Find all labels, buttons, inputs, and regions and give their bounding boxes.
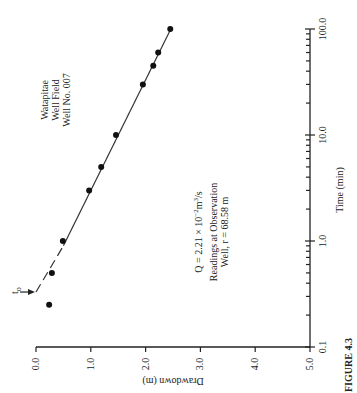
- t0-arrow-head-icon: [28, 289, 35, 295]
- figure-caption-fragment: FIGURE 4.3: [343, 338, 354, 392]
- data-point: [86, 187, 92, 193]
- drawdown-tick-label: 1.0: [85, 358, 96, 371]
- drawdown-axis-title: Drawdown (m): [142, 375, 203, 387]
- drawdown-ticks: [36, 347, 310, 352]
- readings-line-2: Well, r = 68.58 m: [219, 197, 230, 268]
- t0-marker: to: [9, 287, 35, 295]
- title-line-1: Watapitae: [39, 80, 50, 120]
- discharge-rate-text: Q = 2.21 × 10−2m3/s: [192, 191, 204, 273]
- q-suffix: /s: [193, 191, 204, 198]
- drawdown-time-chart: 0.01.02.03.04.05.0 0.11.010.0100.0 Drawd…: [0, 0, 357, 393]
- t0-label-subscript: o: [14, 287, 23, 291]
- drawdown-tick-label: 2.0: [140, 358, 151, 371]
- title-line-2: Well Field: [50, 79, 61, 121]
- data-points: [46, 26, 173, 308]
- data-point: [46, 302, 52, 308]
- data-point: [155, 50, 161, 56]
- data-point: [150, 63, 156, 69]
- drawdown-tick-label: 0.0: [30, 358, 41, 371]
- data-point: [60, 238, 66, 244]
- time-tick-label: 0.1: [317, 341, 328, 354]
- data-point: [167, 26, 173, 32]
- time-tick-label: 100.0: [317, 18, 328, 41]
- data-point: [140, 81, 146, 87]
- q-prefix: Q = 2.21 × 10: [193, 217, 204, 273]
- time-tick-labels: 0.11.010.0100.0: [317, 18, 328, 354]
- fit-line-dashed: [36, 246, 63, 292]
- drawdown-tick-label: 3.0: [194, 358, 205, 371]
- pumping-info-block: Q = 2.21 × 10−2m3/s Readings at Observat…: [192, 183, 230, 281]
- time-axis-title: Time (min): [334, 167, 346, 212]
- drawdown-tick-labels: 0.01.02.03.04.05.0: [30, 358, 315, 371]
- drawdown-tick-label: 4.0: [249, 358, 260, 371]
- drawdown-tick-label: 5.0: [304, 358, 315, 371]
- data-point: [113, 132, 119, 138]
- data-point: [98, 164, 104, 170]
- well-title-block: Watapitae Well Field Well No. 007: [39, 73, 72, 126]
- readings-line-1: Readings at Observation: [208, 183, 219, 281]
- t0-label: to: [9, 287, 23, 294]
- time-tick-label: 10.0: [317, 126, 328, 144]
- time-tick-label: 1.0: [317, 235, 328, 248]
- data-point: [49, 270, 55, 276]
- title-line-3: Well No. 007: [61, 73, 72, 126]
